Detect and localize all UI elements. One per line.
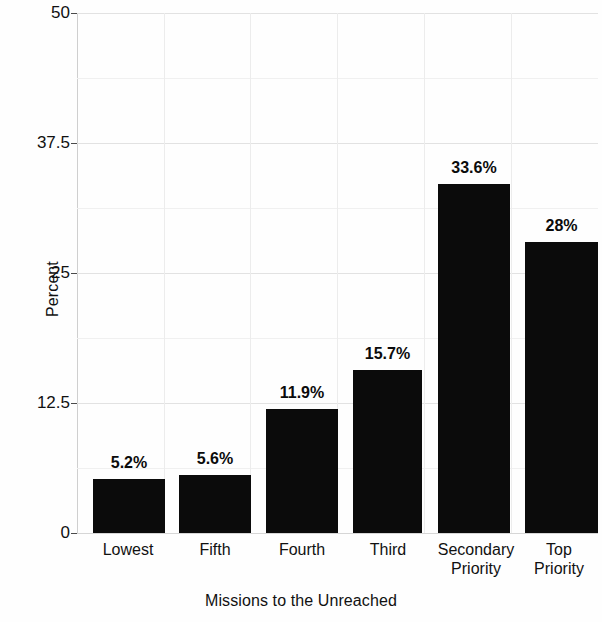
x-tick-label-third: Third bbox=[340, 540, 436, 559]
x-axis-title: Missions to the Unreached bbox=[0, 592, 602, 610]
x-tick-label-secondary-priority: Secondary Priority bbox=[426, 540, 526, 578]
bar-value-third: 15.7% bbox=[353, 345, 422, 363]
y-tick-label-0: 0 bbox=[12, 523, 70, 543]
bar-chart: Percent 50 37.5 25 12.5 0 bbox=[0, 0, 602, 622]
x-tick-label-fourth-line1: Fourth bbox=[254, 540, 350, 559]
bar-value-fifth: 5.6% bbox=[179, 450, 251, 468]
x-tick-label-fourth: Fourth bbox=[254, 540, 350, 559]
gridline-x-5 bbox=[511, 13, 512, 533]
y-axis-ticks: 50 37.5 25 12.5 0 bbox=[0, 0, 70, 622]
bar-secondary-priority[interactable] bbox=[438, 184, 510, 533]
y-tick-label-37-5: 37.5 bbox=[12, 133, 70, 153]
x-tick-label-lowest-line1: Lowest bbox=[80, 540, 176, 559]
x-tick-label-fifth-line1: Fifth bbox=[167, 540, 263, 559]
y-tick-label-12-5: 12.5 bbox=[12, 393, 70, 413]
x-tick-label-top-priority-line2: Priority bbox=[520, 559, 598, 578]
bar-value-fourth: 11.9% bbox=[266, 384, 338, 402]
x-tick-label-lowest: Lowest bbox=[80, 540, 176, 559]
x-tick-label-secondary-priority-line1: Secondary bbox=[426, 540, 526, 559]
x-tick-label-fifth: Fifth bbox=[167, 540, 263, 559]
bar-fifth[interactable] bbox=[179, 475, 251, 533]
bar-third[interactable] bbox=[353, 370, 422, 533]
bar-value-secondary-priority: 33.6% bbox=[438, 159, 510, 177]
bar-lowest[interactable] bbox=[93, 479, 165, 533]
bar-fourth[interactable] bbox=[266, 409, 338, 533]
y-tick-label-50: 50 bbox=[12, 3, 70, 23]
x-tick-label-top-priority-line1: Top bbox=[520, 540, 598, 559]
bar-value-lowest: 5.2% bbox=[93, 454, 165, 472]
x-tick-label-secondary-priority-line2: Priority bbox=[426, 559, 526, 578]
y-tick-label-25: 25 bbox=[12, 263, 70, 283]
plot-area: 5.2% 5.6% 11.9% 15.7% 33.6% 28% bbox=[77, 13, 598, 533]
x-tick-label-top-priority: Top Priority bbox=[520, 540, 598, 578]
bar-value-top-priority: 28% bbox=[525, 217, 598, 235]
x-axis-line bbox=[77, 533, 598, 534]
bar-top-priority[interactable] bbox=[525, 242, 598, 533]
x-tick-label-third-line1: Third bbox=[340, 540, 436, 559]
gridline-x-4 bbox=[424, 13, 425, 533]
